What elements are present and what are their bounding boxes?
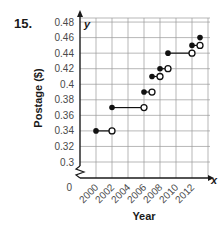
y-tick-labels: 0.480.460.440.420.40.380.360.340.320.3: [55, 17, 75, 168]
origin-label: 0: [66, 182, 72, 193]
closed-point: [141, 89, 147, 95]
problem-number: 15.: [14, 16, 32, 31]
x-tick-label: 2012: [173, 181, 197, 205]
y-tick-label: 0.32: [55, 141, 75, 152]
x-axis-letter: x: [210, 174, 218, 186]
x-tick-labels: 2000200220042006200820102012: [77, 181, 197, 205]
closed-point: [149, 74, 155, 80]
open-point: [157, 73, 163, 79]
closed-point: [189, 43, 195, 49]
y-tick-label: 0.44: [55, 48, 75, 59]
y-tick-label: 0.3: [60, 157, 74, 168]
y-tick-label: 0.34: [55, 125, 75, 136]
closed-point: [165, 50, 171, 56]
y-tick-label: 0.48: [55, 17, 75, 28]
axes: [76, 10, 214, 181]
open-point: [165, 66, 171, 72]
step-chart: 15. 0.480.460.440.420.40.380.360.340.320…: [0, 0, 218, 234]
y-tick-label: 0.38: [55, 94, 75, 105]
grid-lines: [80, 18, 210, 178]
open-point: [141, 105, 147, 111]
x-axis-label: Year: [132, 210, 156, 222]
y-tick-label: 0.42: [55, 63, 75, 74]
closed-point: [93, 128, 99, 134]
closed-point: [109, 105, 115, 111]
y-axis-label: Postage ($): [32, 68, 44, 128]
y-axis-letter: y: [83, 18, 91, 30]
closed-point: [197, 35, 203, 41]
open-point: [149, 89, 155, 95]
open-point: [109, 128, 115, 134]
closed-point: [157, 66, 163, 72]
y-tick-label: 0.4: [60, 79, 74, 90]
y-tick-label: 0.46: [55, 32, 75, 43]
open-point: [189, 50, 195, 56]
y-tick-label: 0.36: [55, 110, 75, 121]
open-point: [197, 42, 203, 48]
